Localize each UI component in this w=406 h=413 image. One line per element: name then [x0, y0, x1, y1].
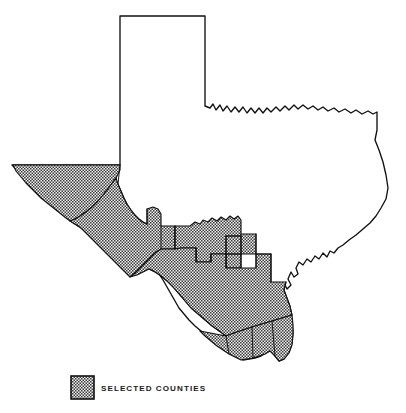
- county-region-edwards-kinney-column: [226, 236, 241, 254]
- map-canvas: SELECTED COUNTIES: [0, 0, 406, 413]
- texas-selected-counties-map: SELECTED COUNTIES: [0, 0, 406, 413]
- legend-label-selected-counties: SELECTED COUNTIES: [101, 384, 206, 393]
- stipple-pattern-swatch: [71, 376, 94, 399]
- legend: SELECTED COUNTIES: [71, 376, 206, 399]
